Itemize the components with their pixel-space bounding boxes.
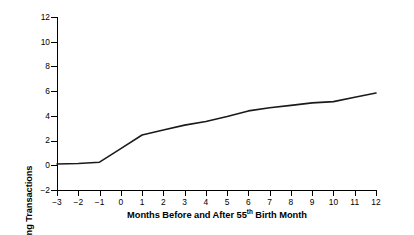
series-line-cash-chequeing	[57, 93, 376, 164]
x-axis-title: Months Before and After 55th Birth Month	[57, 210, 377, 220]
series-layer	[0, 0, 414, 235]
x-axis-title-before: Months Before and After 55	[127, 210, 247, 220]
line-chart-figure: Number of Cash and Chequeing Transaction…	[0, 0, 414, 235]
x-axis-title-after: Birth Month	[253, 210, 307, 220]
